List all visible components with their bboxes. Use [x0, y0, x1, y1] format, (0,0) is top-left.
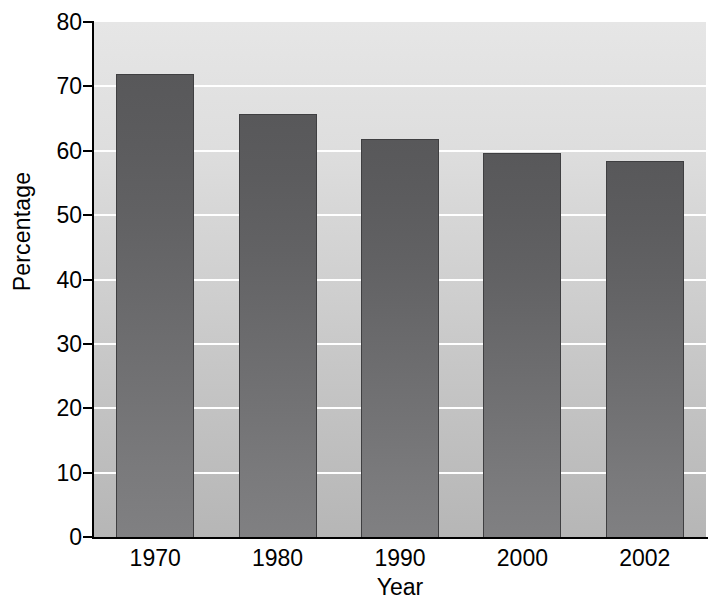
x-tick-label-1980: 1980 [218, 545, 338, 571]
x-axis-line [92, 537, 708, 539]
x-axis-tick-labels: 1970 1980 1990 2000 2002 [94, 545, 706, 575]
bar-1990[interactable] [361, 139, 439, 537]
y-tick-label-20: 20 [36, 397, 82, 420]
bar-1980[interactable] [239, 114, 317, 537]
x-tick-label-1990: 1990 [340, 545, 460, 571]
y-tick-label-10: 10 [36, 462, 82, 485]
y-axis-tick-labels: 0 10 20 30 40 50 60 70 80 [36, 0, 82, 605]
x-tick-label-1970: 1970 [95, 545, 215, 571]
y-axis-title: Percentage [9, 132, 36, 332]
bar-chart-figure: Percentage 0 10 20 30 40 50 60 70 80 [0, 0, 721, 605]
x-tick-label-2002: 2002 [585, 545, 705, 571]
y-tick-label-30: 30 [36, 333, 82, 356]
y-tick-label-70: 70 [36, 75, 82, 98]
bar-1970[interactable] [116, 74, 194, 538]
bar-2002[interactable] [606, 161, 684, 537]
y-tick-label-60: 60 [36, 140, 82, 163]
bar-2000[interactable] [483, 153, 561, 537]
y-tick-label-80: 80 [36, 11, 82, 34]
x-axis-title: Year [94, 574, 706, 601]
plot-area [94, 22, 706, 537]
y-tick-label-40: 40 [36, 269, 82, 292]
y-tick-label-0: 0 [36, 526, 82, 549]
x-tick-label-2000: 2000 [462, 545, 582, 571]
y-axis-line [92, 21, 94, 539]
y-tick-label-50: 50 [36, 204, 82, 227]
